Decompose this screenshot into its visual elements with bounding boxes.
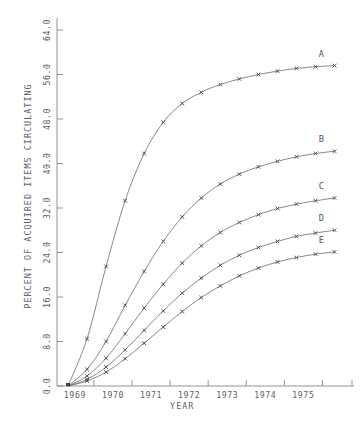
y-axis-tick-label: 0.0 (42, 378, 52, 395)
series-label-c: C (319, 181, 325, 191)
data-series-c (68, 196, 336, 386)
series-line (68, 230, 335, 386)
origin-marker (66, 383, 70, 386)
y-axis-tick-label: 8.0 (42, 333, 52, 350)
series-line (68, 198, 335, 386)
data-point-marker (123, 332, 127, 336)
data-point-marker (199, 296, 203, 300)
x-axis-title: YEAR (170, 401, 194, 411)
data-point-marker (123, 303, 127, 307)
data-point-marker (142, 152, 146, 156)
x-axis-tick-label: 1970 (102, 390, 124, 400)
data-point-marker (142, 306, 146, 310)
data-point-marker (180, 261, 184, 265)
data-point-marker (199, 196, 203, 200)
data-point-marker (123, 348, 127, 352)
data-point-marker (85, 367, 89, 371)
data-point-marker (218, 263, 222, 267)
y-axis-tick-label: 16.0 (42, 286, 52, 308)
series-labels-layer: ABCDE (319, 49, 325, 245)
y-axis-tick-label: 40.0 (42, 152, 52, 174)
data-point-marker (199, 90, 203, 94)
data-point-marker (104, 365, 108, 369)
data-point-marker (123, 357, 127, 361)
data-point-marker (161, 239, 165, 243)
data-point-marker (218, 284, 222, 288)
data-point-marker (180, 310, 184, 314)
data-point-marker (161, 325, 165, 329)
data-point-marker (257, 266, 261, 270)
series-label-d: D (319, 213, 325, 223)
data-point-marker (199, 276, 203, 280)
y-axis-tick-label: 48.0 (42, 108, 52, 130)
data-point-marker (218, 83, 222, 87)
series-line (68, 151, 335, 386)
data-point-marker (104, 356, 108, 360)
series-label-b: B (319, 134, 325, 144)
data-point-marker (257, 213, 261, 217)
y-axis-tick-label: 64.0 (42, 19, 52, 41)
data-series-d (68, 228, 336, 386)
data-point-marker (85, 374, 89, 378)
data-point-marker (199, 244, 203, 248)
y-axis-tick-label: 56.0 (42, 63, 52, 85)
axis-text-layer: 0.08.016.024.032.040.048.056.064.0PERCEN… (23, 19, 314, 411)
data-point-marker (180, 291, 184, 295)
x-axis-tick-label: 1972 (178, 390, 200, 400)
series-label-e: E (319, 235, 325, 245)
data-point-marker (218, 231, 222, 235)
y-axis-tick-label: 32.0 (42, 197, 52, 219)
x-axis-tick-label: 1975 (292, 390, 314, 400)
data-point-marker (142, 341, 146, 345)
x-axis-tick-label: 1969 (64, 390, 86, 400)
line-chart: ABCDE 0.08.016.024.032.040.048.056.064.0… (0, 0, 364, 431)
data-point-marker (161, 120, 165, 124)
data-point-marker (237, 221, 241, 225)
y-axis-tick-label: 24.0 (42, 241, 52, 263)
data-point-marker (161, 309, 165, 313)
data-point-marker (104, 340, 108, 344)
x-axis-tick-label: 1973 (216, 390, 238, 400)
data-point-marker (237, 253, 241, 257)
data-point-marker (237, 274, 241, 278)
y-axis-title: PERCENT OF ACQUIRED ITEMS CIRCULATING (23, 83, 33, 308)
data-series-b (68, 149, 336, 386)
data-point-marker (218, 182, 222, 186)
data-point-marker (180, 215, 184, 219)
data-point-marker (237, 172, 241, 176)
data-series-layer (66, 64, 336, 387)
series-label-a: A (319, 49, 325, 59)
x-axis-tick-label: 1974 (254, 390, 276, 400)
data-point-marker (142, 328, 146, 332)
data-point-marker (161, 282, 165, 286)
chart-container: ABCDE 0.08.016.024.032.040.048.056.064.0… (0, 0, 364, 431)
data-point-marker (142, 270, 146, 274)
data-point-marker (104, 370, 108, 374)
x-axis-tick-label: 1971 (140, 390, 162, 400)
data-point-marker (180, 102, 184, 106)
data-point-marker (257, 246, 261, 250)
